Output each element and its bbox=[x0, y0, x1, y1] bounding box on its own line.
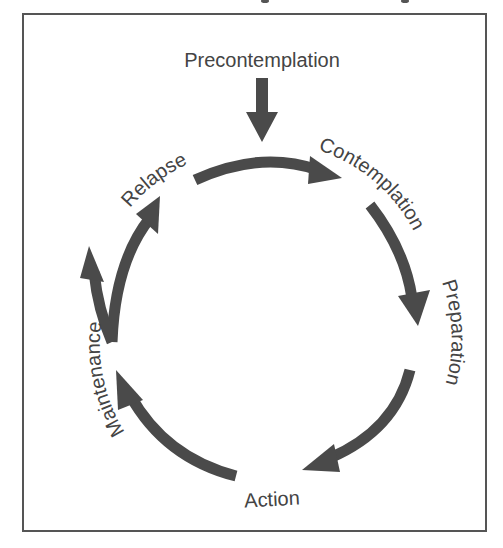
arrow-action-to-maintenance bbox=[116, 370, 236, 476]
arrow-maintenance-to-relapse bbox=[112, 196, 160, 342]
label-action: Action bbox=[244, 487, 301, 512]
stages-of-change-diagram: Precontemplation Contemplation Preparati… bbox=[0, 0, 503, 548]
label-precontemplation: Precontemplation bbox=[184, 49, 340, 71]
cropped-title-fragments bbox=[261, 0, 409, 3]
diagram-canvas: Precontemplation Contemplation Preparati… bbox=[0, 0, 503, 548]
arrow-preparation-to-action bbox=[302, 370, 410, 472]
label-preparation: Preparation bbox=[438, 277, 469, 388]
arrow-relapse-to-contemplation bbox=[195, 156, 342, 184]
entry-arrow-down bbox=[246, 78, 278, 142]
